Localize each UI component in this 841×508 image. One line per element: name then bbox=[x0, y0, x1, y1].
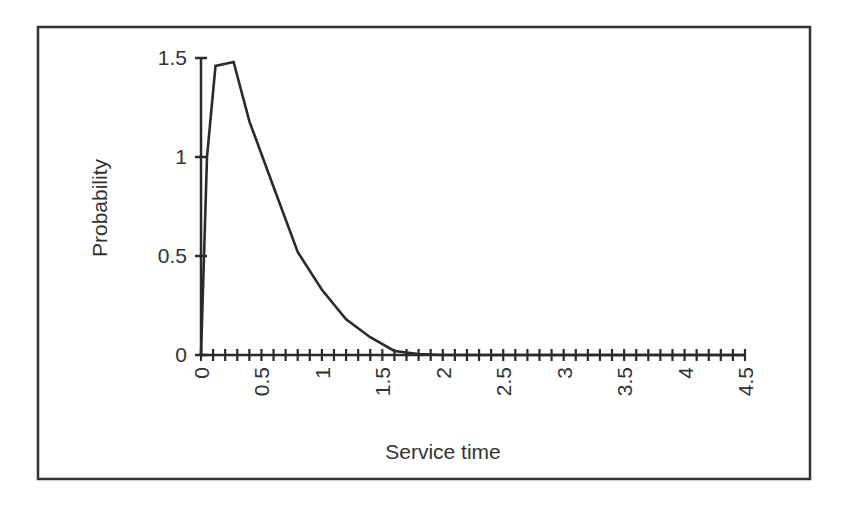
x-tick-label: 0.5 bbox=[250, 367, 273, 396]
data-line bbox=[201, 62, 745, 355]
y-tick-label: 1 bbox=[175, 145, 187, 168]
x-tick-label: 0 bbox=[190, 367, 213, 379]
x-tick-label: 1.5 bbox=[371, 367, 394, 396]
chart-border bbox=[38, 27, 810, 479]
chart: 00.511.5 00.511.522.533.544.5 Probabilit… bbox=[0, 0, 841, 508]
y-tick-label: 0.5 bbox=[158, 244, 187, 267]
x-tick-label: 3.5 bbox=[613, 367, 636, 396]
x-tick-label: 3 bbox=[553, 367, 576, 379]
y-tick-label: 1.5 bbox=[158, 46, 187, 69]
x-axis-label: Service time bbox=[385, 440, 501, 463]
y-axis: 00.511.5 bbox=[158, 46, 207, 366]
x-tick-label: 2 bbox=[432, 367, 455, 379]
x-tick-label: 4 bbox=[674, 367, 697, 379]
x-tick-label: 1 bbox=[311, 367, 334, 379]
x-tick-label: 2.5 bbox=[492, 367, 515, 396]
y-tick-label: 0 bbox=[175, 343, 187, 366]
y-axis-label: Probability bbox=[88, 158, 111, 257]
x-tick-label: 4.5 bbox=[734, 367, 757, 396]
